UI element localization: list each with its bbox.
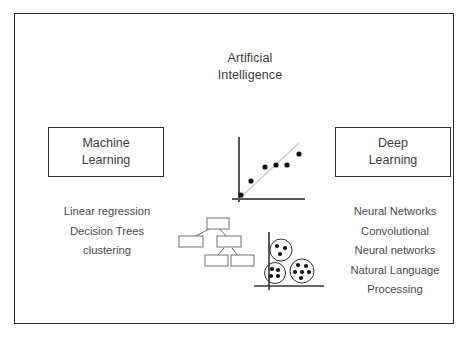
tree-node-leaf1 <box>179 236 203 247</box>
cluster-axes <box>254 232 324 290</box>
list-item: Processing <box>325 280 465 300</box>
linear-regression-scatter-figure <box>220 132 320 210</box>
machine-learning-label-line-2: Learning <box>82 152 131 169</box>
list-item: clustering <box>37 241 177 261</box>
clustering-figure <box>250 228 330 298</box>
deep-learning-box: Deep Learning <box>335 127 451 177</box>
decision-tree-figure <box>175 214 260 270</box>
regression-trend-line <box>241 143 299 197</box>
list-item: Convolutional <box>325 222 465 242</box>
scatter-plot-svg <box>220 132 320 210</box>
deep-learning-label-line-1: Deep <box>378 135 408 152</box>
cluster-plot-svg <box>250 228 330 298</box>
machine-learning-box: Machine Learning <box>48 127 164 177</box>
tree-node-root <box>207 218 229 229</box>
diagram-canvas: Artificial Intelligence Machine Learning… <box>0 0 470 341</box>
machine-learning-technique-list: Linear regression Decision Trees cluster… <box>37 202 177 261</box>
cluster-2 <box>265 263 286 284</box>
list-item: Decision Trees <box>37 222 177 242</box>
cluster-3 <box>290 259 314 283</box>
deep-learning-label-line-2: Learning <box>369 152 418 169</box>
machine-learning-label-line-1: Machine <box>82 135 129 152</box>
list-item: Natural Language <box>325 261 465 281</box>
diagram-frame: Artificial Intelligence Machine Learning… <box>14 13 454 324</box>
title-line-2: Intelligence <box>170 67 330 84</box>
list-item: Neural Networks <box>325 202 465 222</box>
cluster-1 <box>270 239 292 261</box>
deep-learning-technique-list: Neural Networks Convolutional Neural net… <box>325 202 465 300</box>
list-item: Neural networks <box>325 241 465 261</box>
tree-node-inner <box>217 236 241 247</box>
list-item: Linear regression <box>37 202 177 222</box>
tree-nodes <box>179 218 254 266</box>
page-title: Artificial Intelligence <box>170 50 330 84</box>
tree-node-leaf3 <box>205 255 228 266</box>
decision-tree-svg <box>175 214 260 270</box>
title-line-1: Artificial <box>170 50 330 67</box>
